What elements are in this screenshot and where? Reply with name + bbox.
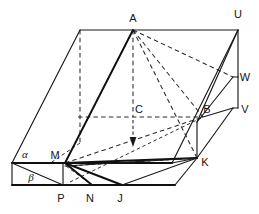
edge-A-to-B (133, 30, 203, 117)
label-C: C (135, 103, 143, 115)
label-U: U (234, 8, 242, 20)
edge-alpharight-to-U (172, 30, 238, 163)
label-V: V (241, 103, 249, 115)
label-N: N (86, 192, 94, 204)
label-plane-alpha: α (22, 148, 28, 160)
edge-A-to-K (133, 30, 197, 158)
edge-A-to-M (65, 30, 133, 163)
down-arrow-group (130, 120, 137, 147)
label-P: P (57, 192, 64, 204)
edge-M-to-J (65, 163, 122, 185)
label-J: J (117, 192, 123, 204)
arrow-head-icon (130, 137, 137, 147)
label-plane-beta: β (27, 171, 34, 183)
label-B: B (203, 103, 210, 115)
label-M: M (50, 149, 59, 161)
edge-topleft-to-alphaleft (12, 30, 80, 163)
label-W: W (240, 71, 251, 83)
geometry-canvas: A U W V C B K M P N J α β (0, 0, 259, 214)
geometry-figure: A U W V C B K M P N J α β (0, 0, 259, 214)
label-A: A (129, 12, 137, 24)
label-K: K (201, 156, 209, 168)
edge-beta-top-to-P (12, 163, 63, 185)
